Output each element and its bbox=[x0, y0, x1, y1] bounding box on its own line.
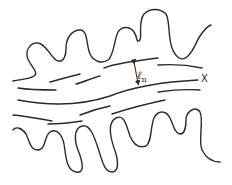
diagram-canvas: ℓn X bbox=[0, 0, 232, 185]
axis-label-x: X bbox=[201, 73, 208, 84]
lower-wavy-boundary bbox=[13, 109, 220, 172]
streamline-dashes bbox=[13, 58, 202, 124]
diagram-svg bbox=[0, 0, 232, 185]
upper-wavy-boundary bbox=[13, 10, 211, 82]
thickness-label: ℓn bbox=[137, 69, 147, 84]
